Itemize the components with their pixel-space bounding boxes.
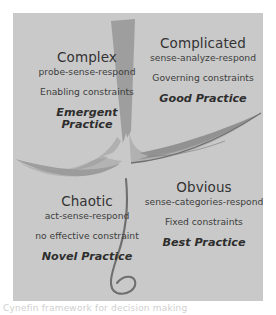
quadrant-complicated-practice: Good Practice (141, 93, 263, 106)
quadrant-obvious-title: Obvious (141, 181, 263, 195)
figure-caption: Cynefin framework for decision making (3, 303, 273, 315)
quadrant-obvious-constraint: Fixed constraints (141, 217, 263, 226)
quadrant-complicated: Complicated sense-analyze-respond Govern… (141, 37, 263, 105)
quadrant-complex-constraint: Enabling constraints (27, 87, 147, 96)
quadrant-chaotic: Chaotic act-sense-respond no effective c… (25, 195, 149, 263)
quadrant-chaotic-title: Chaotic (25, 195, 149, 209)
quadrant-chaotic-approach: act-sense-respond (25, 211, 149, 220)
quadrant-complicated-constraint: Governing constraints (141, 73, 263, 82)
quadrant-obvious-practice: Best Practice (141, 237, 263, 250)
right-divider-wedge (128, 113, 261, 161)
quadrant-complicated-approach: sense-analyze-respond (141, 53, 263, 62)
quadrant-complex-practice-line2: Practice (27, 119, 147, 132)
framework-panel: Complex probe-sense-respond Enabling con… (13, 13, 263, 301)
quadrant-chaotic-constraint: no effective constraint (25, 231, 149, 240)
cynefin-framework-figure: Complex probe-sense-respond Enabling con… (0, 0, 276, 315)
quadrant-complex-approach: probe-sense-respond (27, 67, 147, 76)
quadrant-chaotic-practice: Novel Practice (25, 251, 149, 264)
quadrant-complex: Complex probe-sense-respond Enabling con… (27, 51, 147, 132)
quadrant-complicated-title: Complicated (141, 37, 263, 51)
quadrant-obvious: Obvious sense-categories-respond Fixed c… (141, 181, 263, 249)
quadrant-complex-title: Complex (27, 51, 147, 65)
quadrant-obvious-approach: sense-categories-respond (141, 197, 263, 206)
junction-shade-lower-left (17, 158, 122, 176)
